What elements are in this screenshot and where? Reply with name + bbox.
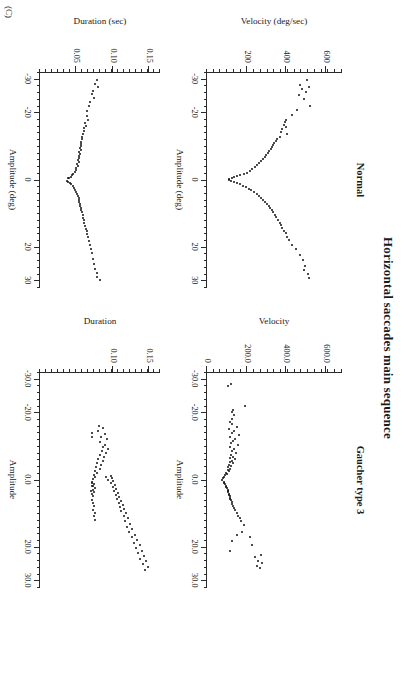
data-point bbox=[93, 515, 95, 517]
data-point bbox=[116, 498, 118, 500]
panel-title-gaucher: Gaucher type 3 bbox=[355, 360, 366, 600]
x-axis-title: Amplitude bbox=[175, 460, 185, 499]
data-point bbox=[288, 239, 290, 241]
data-point bbox=[83, 127, 85, 129]
data-point bbox=[83, 219, 85, 221]
data-point bbox=[96, 462, 98, 464]
data-point bbox=[249, 170, 251, 172]
data-point bbox=[145, 560, 147, 562]
data-point bbox=[258, 162, 260, 164]
y-axis-title: Velocity (deg/sec) bbox=[241, 16, 308, 26]
data-point bbox=[92, 509, 94, 511]
data-point bbox=[308, 277, 310, 279]
data-point bbox=[94, 487, 96, 489]
data-point bbox=[254, 166, 256, 168]
x-tick-label: 0.0 bbox=[190, 474, 199, 484]
data-point bbox=[125, 512, 127, 514]
figure-main-title: Horizontal saccades main sequence bbox=[380, 0, 396, 676]
y-tick-label: 0.10 bbox=[108, 48, 117, 63]
data-point bbox=[91, 499, 93, 501]
data-point bbox=[261, 562, 263, 564]
x-axis-title: Amplitude (deg) bbox=[175, 149, 185, 210]
x-tick-label: -30 bbox=[190, 73, 199, 84]
data-point bbox=[245, 186, 247, 188]
data-point bbox=[232, 456, 234, 458]
data-point bbox=[89, 101, 91, 103]
data-point bbox=[107, 448, 109, 450]
data-point bbox=[230, 180, 232, 182]
data-point bbox=[123, 515, 125, 517]
data-point bbox=[84, 225, 86, 227]
data-point bbox=[74, 171, 76, 173]
data-point bbox=[280, 131, 282, 133]
data-point bbox=[243, 524, 245, 526]
data-point bbox=[308, 86, 310, 88]
data-point bbox=[228, 470, 230, 472]
data-point bbox=[95, 466, 97, 468]
data-point bbox=[134, 534, 136, 536]
data-point bbox=[107, 479, 109, 481]
data-point bbox=[131, 528, 133, 530]
data-point bbox=[226, 473, 228, 475]
data-point bbox=[81, 211, 83, 213]
data-point bbox=[233, 414, 235, 416]
data-point bbox=[299, 84, 301, 86]
data-point bbox=[236, 534, 238, 536]
data-point bbox=[296, 109, 298, 111]
data-point bbox=[260, 554, 262, 556]
data-point bbox=[102, 460, 104, 462]
data-point bbox=[286, 236, 288, 238]
data-point bbox=[277, 219, 279, 221]
data-point bbox=[229, 436, 231, 438]
data-point bbox=[250, 189, 252, 191]
data-point bbox=[82, 217, 84, 219]
data-point bbox=[229, 421, 231, 423]
scatter-points bbox=[207, 72, 342, 287]
data-point bbox=[99, 468, 101, 470]
data-point bbox=[281, 128, 283, 130]
y-tick-label: 400 bbox=[282, 51, 291, 63]
data-point bbox=[131, 536, 133, 538]
x-tick-label: 0 bbox=[190, 177, 199, 181]
data-point bbox=[301, 88, 303, 90]
data-point bbox=[114, 484, 116, 486]
data-point bbox=[237, 444, 239, 446]
data-point bbox=[86, 230, 88, 232]
data-point bbox=[135, 547, 137, 549]
x-tick-label: 30 bbox=[23, 276, 32, 284]
data-point bbox=[118, 496, 120, 498]
y-tick-label: 0.15 bbox=[145, 48, 154, 63]
x-tick-label: -30.0 bbox=[23, 370, 32, 387]
x-minor-tick bbox=[204, 287, 207, 288]
data-point bbox=[248, 188, 250, 190]
data-point bbox=[91, 436, 93, 438]
data-point bbox=[283, 124, 285, 126]
data-point bbox=[236, 182, 238, 184]
data-point bbox=[91, 485, 93, 487]
data-point bbox=[240, 520, 242, 522]
data-point bbox=[94, 476, 96, 478]
data-point bbox=[85, 125, 87, 127]
data-point bbox=[93, 263, 95, 265]
data-point bbox=[231, 177, 233, 179]
data-point bbox=[86, 115, 88, 117]
data-point bbox=[141, 550, 143, 552]
data-point bbox=[111, 477, 113, 479]
x-tick-label: -20.0 bbox=[190, 404, 199, 421]
data-point bbox=[96, 272, 98, 274]
data-point bbox=[309, 105, 311, 107]
data-point bbox=[304, 265, 306, 267]
data-point bbox=[85, 228, 87, 230]
data-point bbox=[112, 486, 114, 488]
data-point bbox=[92, 258, 94, 260]
data-point bbox=[299, 254, 301, 256]
data-point bbox=[90, 490, 92, 492]
data-point bbox=[253, 191, 255, 193]
data-point bbox=[291, 114, 293, 116]
y-axis-title: Duration bbox=[84, 316, 117, 326]
data-point bbox=[113, 490, 115, 492]
data-point bbox=[229, 468, 231, 470]
data-point bbox=[127, 517, 129, 519]
data-point bbox=[285, 232, 287, 234]
data-point bbox=[128, 531, 130, 533]
